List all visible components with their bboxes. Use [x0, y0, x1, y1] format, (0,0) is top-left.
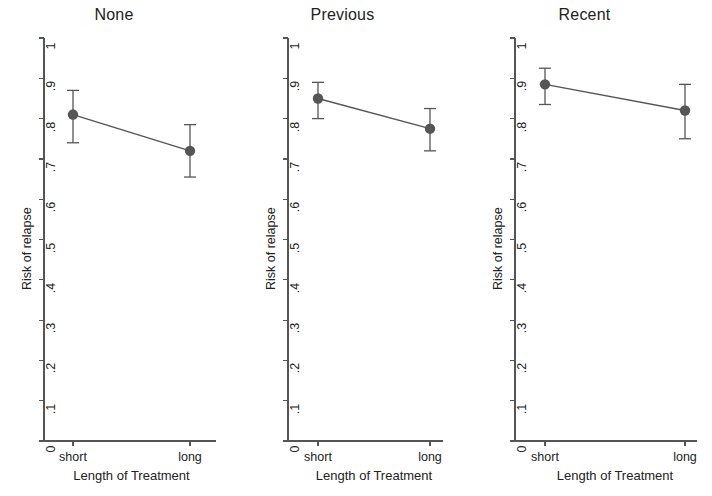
panel-none: None0.1.2.3.4.5.6.7.8.91Risk of relapses…	[0, 0, 228, 496]
series-line	[73, 115, 190, 151]
x-axis-label: Length of Treatment	[316, 468, 432, 483]
x-tick-label-0: short	[59, 450, 87, 464]
y-tick-label-10: 1	[43, 38, 59, 54]
y-tick-label-1: .1	[514, 401, 530, 417]
y-tick-label-6: .6	[514, 199, 530, 215]
data-point-0	[68, 109, 78, 119]
y-tick-label-7: .7	[514, 159, 530, 175]
y-tick-label-9: .9	[514, 78, 530, 94]
y-tick-label-3: .3	[287, 320, 303, 336]
x-axis-label: Length of Treatment	[557, 468, 673, 483]
y-tick-label-0: 0	[287, 441, 303, 457]
y-tick-label-4: .4	[43, 280, 59, 296]
y-tick-label-5: .5	[43, 240, 59, 256]
data-point-0	[313, 93, 323, 103]
y-tick-label-7: .7	[287, 159, 303, 175]
x-tick-label-1: long	[178, 450, 202, 464]
plot-area	[228, 0, 457, 496]
data-point-1	[680, 105, 690, 115]
x-axis-label: Length of Treatment	[73, 468, 189, 483]
data-point-1	[185, 146, 195, 156]
y-tick-label-7: .7	[43, 159, 59, 175]
y-tick-label-2: .2	[514, 360, 530, 376]
y-axis-label: Risk of relapse	[20, 207, 34, 290]
data-point-0	[540, 79, 550, 89]
y-tick-label-8: .8	[43, 119, 59, 135]
x-tick-label-0: short	[304, 450, 332, 464]
y-tick-label-8: .8	[287, 119, 303, 135]
y-tick-label-1: .1	[287, 401, 303, 417]
y-tick-label-4: .4	[287, 280, 303, 296]
y-tick-label-8: .8	[514, 119, 530, 135]
x-tick-label-0: short	[531, 450, 559, 464]
y-tick-label-0: 0	[43, 441, 59, 457]
y-tick-label-0: 0	[514, 441, 530, 457]
y-tick-label-6: .6	[43, 199, 59, 215]
y-tick-label-6: .6	[287, 199, 303, 215]
x-tick-label-1: long	[673, 450, 697, 464]
y-tick-label-9: .9	[287, 78, 303, 94]
y-tick-label-2: .2	[43, 360, 59, 376]
y-tick-label-5: .5	[287, 240, 303, 256]
y-tick-label-9: .9	[43, 78, 59, 94]
y-tick-label-2: .2	[287, 360, 303, 376]
y-tick-label-3: .3	[43, 320, 59, 336]
y-axis-label: Risk of relapse	[491, 207, 505, 290]
data-point-1	[425, 123, 435, 133]
y-axis-label: Risk of relapse	[264, 207, 278, 290]
y-tick-label-10: 1	[287, 38, 303, 54]
y-tick-label-5: .5	[514, 240, 530, 256]
y-tick-label-4: .4	[514, 280, 530, 296]
y-tick-label-10: 1	[514, 38, 530, 54]
figure-panel-chart: None0.1.2.3.4.5.6.7.8.91Risk of relapses…	[0, 0, 712, 496]
series-line	[545, 84, 685, 110]
series-line	[318, 98, 430, 128]
x-tick-label-1: long	[418, 450, 442, 464]
panel-recent: Recent0.1.2.3.4.5.6.7.8.91Risk of relaps…	[457, 0, 712, 496]
y-tick-label-1: .1	[43, 401, 59, 417]
panel-previous: Previous0.1.2.3.4.5.6.7.8.91Risk of rela…	[228, 0, 457, 496]
plot-area	[0, 0, 228, 496]
y-tick-label-3: .3	[514, 320, 530, 336]
